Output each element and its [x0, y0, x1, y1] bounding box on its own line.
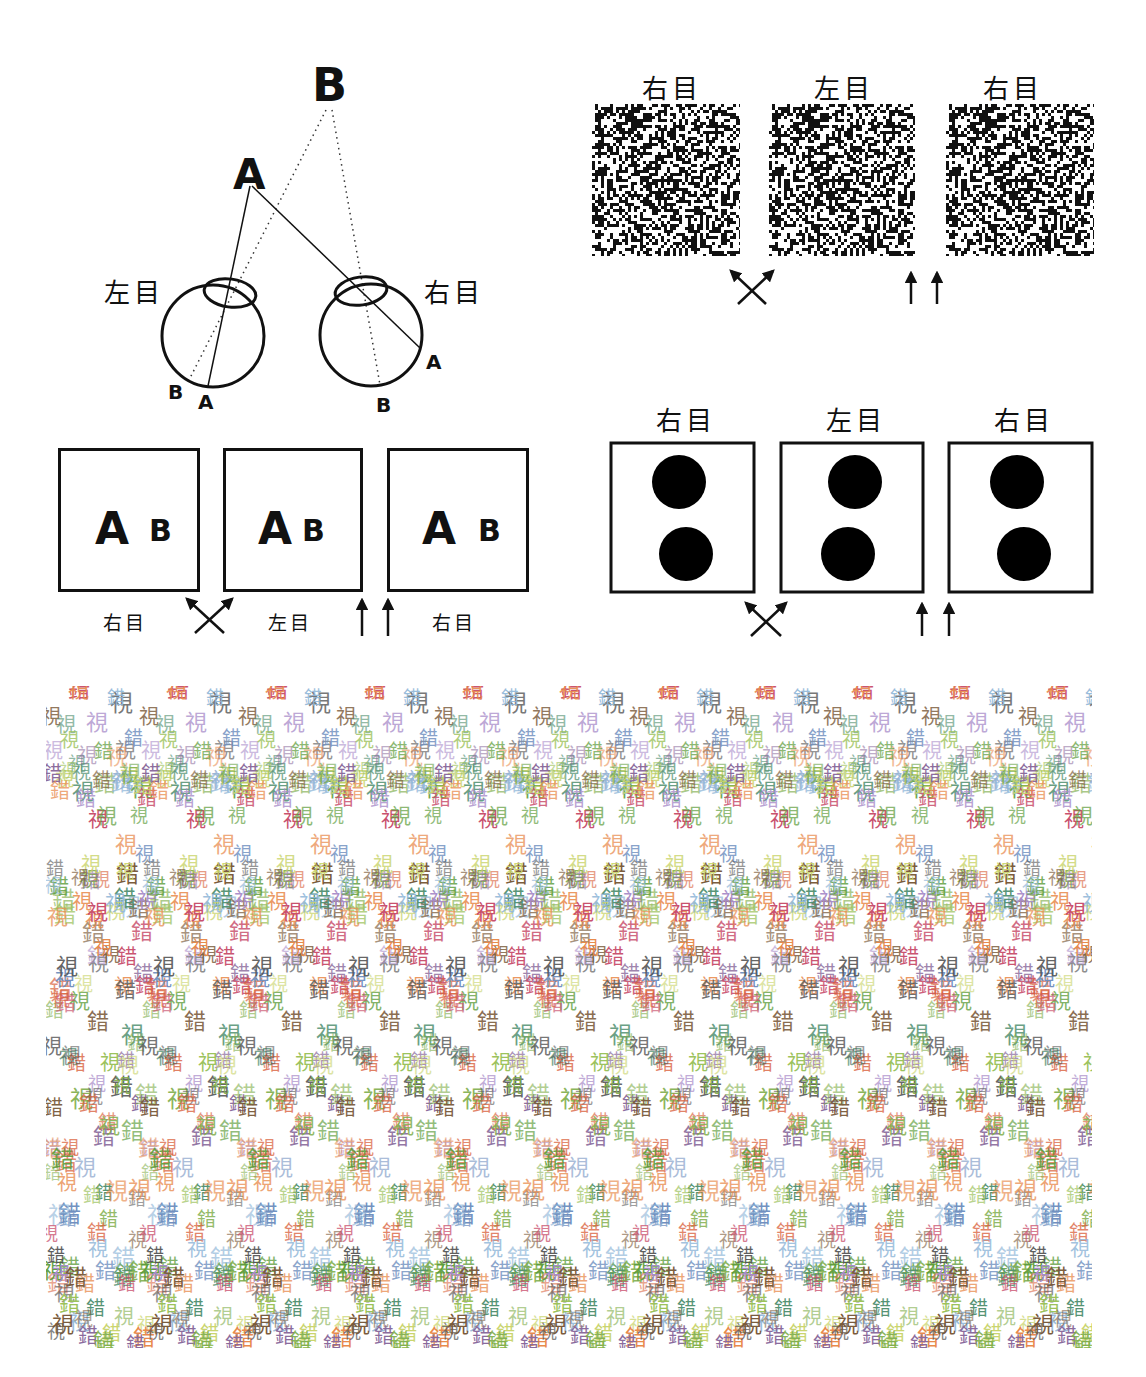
stereogram-glyph: 錯 — [247, 781, 267, 801]
stereogram-glyph: 視 — [491, 1053, 511, 1073]
stereogram-glyph: 視 — [491, 1116, 512, 1137]
stereogram-glyph: 視 — [923, 877, 941, 895]
stereogram-glyph: 錯 — [435, 1098, 455, 1118]
stereogram-glyph: 視 — [100, 1053, 120, 1073]
stereogram-glyph: 視 — [966, 902, 987, 923]
stereogram-glyph: 錯 — [539, 781, 559, 801]
stereogram-glyph: 視 — [451, 762, 469, 780]
stereogram-glyph: 視 — [984, 1116, 1005, 1137]
stereogram-glyph: 錯 — [780, 1331, 801, 1348]
stereogram-glyph: 視 — [993, 834, 1015, 856]
stereogram-glyph: 視 — [476, 902, 497, 923]
stereogram-glyph: 視 — [779, 806, 800, 827]
stereogram-glyph: 視 — [257, 1139, 275, 1157]
stereogram-glyph: 視 — [960, 1157, 982, 1179]
stereogram-glyph: 視 — [382, 712, 404, 734]
stereogram-glyph: 視 — [1048, 869, 1066, 887]
stereogram-glyph: 視 — [1022, 877, 1040, 895]
stereogram-glyph: 視 — [991, 1180, 1014, 1203]
stereogram-glyph: 視 — [904, 1055, 925, 1076]
stereogram-glyph: 錯 — [988, 689, 1006, 707]
stereogram-glyph: 視 — [245, 990, 264, 1009]
stereogram-glyph: 視 — [1073, 939, 1091, 957]
stereogram-glyph: 視 — [187, 1239, 207, 1259]
stereogram-glyph: 視 — [310, 834, 332, 856]
stereogram-glyph: 視 — [660, 975, 679, 994]
stereogram-glyph: 錯 — [877, 1331, 898, 1348]
stereogram-glyph: 錯 — [79, 1094, 99, 1114]
stereogram-glyph: 視 — [1032, 1314, 1054, 1336]
stereogram-glyph: 錯 — [1071, 1331, 1092, 1348]
stereogram-glyph: 視 — [211, 1077, 229, 1095]
stereogram-glyph: 視 — [400, 1180, 423, 1203]
stereogram-glyph: 錯 — [1026, 1098, 1046, 1118]
stereogram-glyph: 錯 — [140, 1098, 160, 1118]
stereogram-glyph: 錯 — [773, 1186, 792, 1205]
stereogram-glyph: 視 — [348, 1314, 370, 1336]
stereogram-glyph: 視 — [538, 990, 557, 1009]
stereogram-glyph: 視 — [390, 806, 411, 827]
stereogram-glyph: 錯 — [793, 689, 811, 707]
stereogram-glyph: 視 — [184, 902, 205, 923]
stereogram-glyph: 視 — [857, 975, 876, 994]
stereogram-glyph: 視 — [973, 1239, 993, 1259]
stereogram-glyph: 視 — [194, 806, 215, 827]
stereogram-glyph: 視 — [645, 762, 663, 780]
stereogram-glyph: 視 — [288, 939, 306, 957]
stereogram-glyph: 視 — [242, 907, 263, 928]
stereogram-glyph: 錯 — [403, 689, 421, 707]
stereogram-glyph: 錯 — [487, 1331, 508, 1348]
stereogram-glyph: 視 — [895, 834, 917, 856]
stereogram-glyph: 視 — [947, 1139, 965, 1157]
stereogram-glyph: 視 — [336, 1225, 354, 1243]
stereogram-glyph: 視 — [577, 712, 599, 734]
stereogram-glyph: 視 — [632, 1225, 650, 1243]
stereogram-glyph: 視 — [256, 1046, 276, 1066]
stereogram-glyph: 視 — [379, 902, 400, 923]
stereogram-glyph: 視 — [51, 990, 70, 1009]
stereogram-glyph: 視 — [408, 863, 426, 881]
stereogram-glyph: 錯 — [206, 689, 224, 707]
stereogram-glyph: 錯 — [876, 742, 895, 761]
stereogram-glyph: 視 — [499, 1180, 522, 1203]
stereogram-glyph: 視 — [751, 1139, 769, 1157]
stereogram-glyph: 視 — [998, 1077, 1016, 1095]
stereogram-glyph: 錯 — [477, 1011, 499, 1033]
stereogram-glyph: 視 — [1035, 762, 1053, 780]
stereogram-glyph: 視 — [196, 1116, 217, 1137]
stereogram-glyph: 視 — [956, 975, 975, 994]
stereogram-glyph: 視 — [769, 902, 790, 923]
stereogram-glyph: 視 — [798, 863, 816, 881]
stereogram-glyph: 視 — [729, 907, 750, 928]
stereogram-glyph: 錯 — [576, 1186, 595, 1205]
stereogram-glyph: 視 — [603, 1077, 621, 1095]
stereogram-glyph: 視 — [1045, 1139, 1063, 1157]
stereogram-glyph: 視 — [151, 1314, 173, 1336]
stereogram-glyph: 錯 — [93, 1331, 114, 1348]
stereogram-glyph: 錯 — [558, 1267, 580, 1289]
stereogram-glyph: 錯 — [701, 980, 722, 1001]
stereogram-glyph: 視 — [533, 741, 553, 761]
stereogram-glyph: 視 — [408, 834, 430, 856]
stereogram-glyph: 視 — [867, 902, 888, 923]
stereogram-glyph: 錯 — [459, 1267, 481, 1289]
stereogram-glyph: 視 — [46, 877, 62, 895]
stereogram-glyph: 錯 — [910, 1335, 929, 1348]
stereogram-glyph: 視 — [1022, 1225, 1040, 1243]
stereogram-glyph: 視 — [355, 731, 374, 750]
stereogram-glyph: 視 — [397, 893, 418, 914]
stereogram-glyph: 視 — [824, 741, 844, 761]
stereogram-glyph: 視 — [172, 1157, 194, 1179]
stereogram-glyph: 錯 — [734, 781, 754, 801]
stereogram-glyph: 視 — [742, 762, 760, 780]
stereogram-glyph: 視 — [311, 863, 329, 881]
stereogram-glyph: 視 — [925, 1225, 943, 1243]
stereogram-glyph: 錯 — [851, 1267, 873, 1289]
stereogram-glyph: 視 — [545, 1314, 567, 1336]
stereogram-glyph: 視 — [727, 741, 747, 761]
stereogram-glyph: 視 — [302, 1180, 325, 1203]
stereogram-glyph: 視 — [1025, 907, 1046, 928]
stereogram-glyph: 視 — [105, 1180, 128, 1203]
crossed-arrows-icon — [746, 603, 786, 636]
stereogram-glyph: 視 — [281, 902, 302, 923]
